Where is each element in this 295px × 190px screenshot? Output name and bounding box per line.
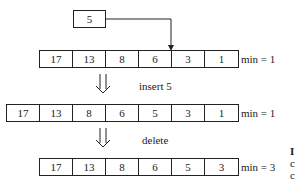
min-label: min = 1	[241, 53, 275, 65]
array-cell: 17	[7, 105, 40, 121]
array-cell: 13	[73, 159, 106, 175]
clipped-caption-fragment: I	[290, 145, 294, 157]
array-row-initial: 17 13 8 6 3 1	[39, 50, 239, 68]
array-cell: 5	[172, 159, 205, 175]
array-cell: 3	[172, 105, 205, 121]
array-cell: 1	[205, 51, 238, 67]
array-cell: 6	[139, 51, 172, 67]
insert-position-connector	[105, 19, 171, 46]
down-arrow-icon	[96, 74, 110, 93]
array-cell: 6	[139, 159, 172, 175]
array-cell: 5	[139, 105, 172, 121]
min-label: min = 1	[241, 107, 275, 119]
transition-label-delete: delete	[142, 134, 168, 146]
array-cell: 3	[172, 51, 205, 67]
min-label: min = 3	[241, 161, 275, 173]
array-cell: 1	[205, 105, 238, 121]
new-element-box: 5	[73, 10, 106, 28]
array-cell: 8	[106, 159, 139, 175]
array-cell: 8	[106, 51, 139, 67]
new-element-value: 5	[87, 13, 93, 25]
array-row-after-insert: 17 13 8 6 5 3 1	[6, 104, 239, 122]
array-row-after-delete: 17 13 8 6 5 3	[39, 158, 239, 176]
transition-label-insert: insert 5	[139, 80, 172, 92]
clipped-caption-fragment: c	[290, 169, 295, 181]
down-arrow-icon	[96, 128, 110, 147]
array-cell: 17	[40, 51, 73, 67]
clipped-caption-fragment: c	[290, 157, 295, 169]
array-cell: 3	[205, 159, 238, 175]
array-cell: 8	[73, 105, 106, 121]
array-cell: 17	[40, 159, 73, 175]
array-cell: 6	[106, 105, 139, 121]
array-cell: 13	[73, 51, 106, 67]
array-cell: 13	[40, 105, 73, 121]
